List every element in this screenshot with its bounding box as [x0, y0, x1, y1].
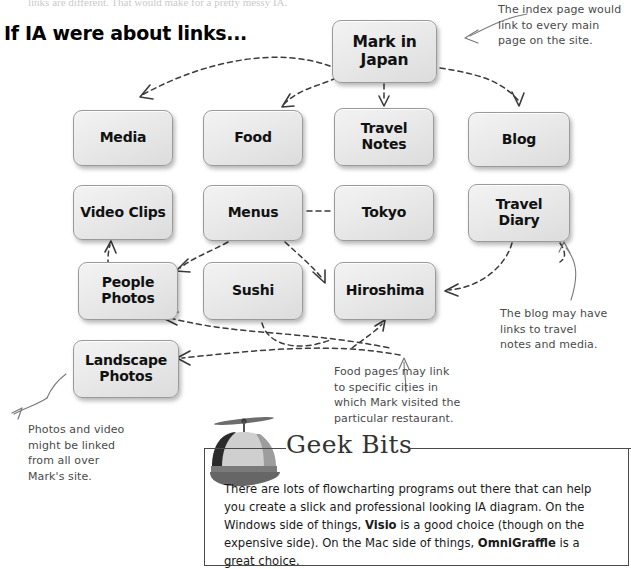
page-title: If IA were about links... — [4, 22, 247, 44]
node-food[interactable]: Food — [203, 110, 303, 166]
geek-bits-box-topcap — [204, 448, 286, 449]
node-people-photos[interactable]: People Photos — [78, 262, 178, 320]
geek-bits-body: There are lots of flowcharting programs … — [224, 480, 610, 569]
node-travel-notes[interactable]: Travel Notes — [334, 108, 434, 166]
node-travel-diary[interactable]: Travel Diary — [468, 184, 570, 242]
node-landscape-photos[interactable]: Landscape Photos — [73, 340, 179, 398]
annotation-photos-video: Photos and video might be linked from al… — [28, 422, 158, 484]
annotation-index-page: The index page would link to every main … — [498, 2, 631, 49]
node-hiroshima[interactable]: Hiroshima — [334, 262, 436, 320]
page-root: links are different. That would make for… — [0, 0, 631, 569]
node-sushi[interactable]: Sushi — [203, 262, 303, 320]
node-video-clips[interactable]: Video Clips — [73, 185, 173, 240]
node-mark-in-japan[interactable]: Mark in Japan — [332, 20, 437, 83]
node-blog[interactable]: Blog — [468, 112, 570, 167]
cutoff-text: links are different. That would make for… — [28, 0, 448, 10]
node-menus[interactable]: Menus — [203, 185, 303, 241]
node-tokyo[interactable]: Tokyo — [334, 185, 434, 241]
node-media[interactable]: Media — [73, 110, 173, 166]
geek-bits-section: Geek Bits There are lots of flowcharting… — [204, 414, 631, 569]
annotation-blog-links: The blog may have links to travel notes … — [500, 306, 631, 353]
